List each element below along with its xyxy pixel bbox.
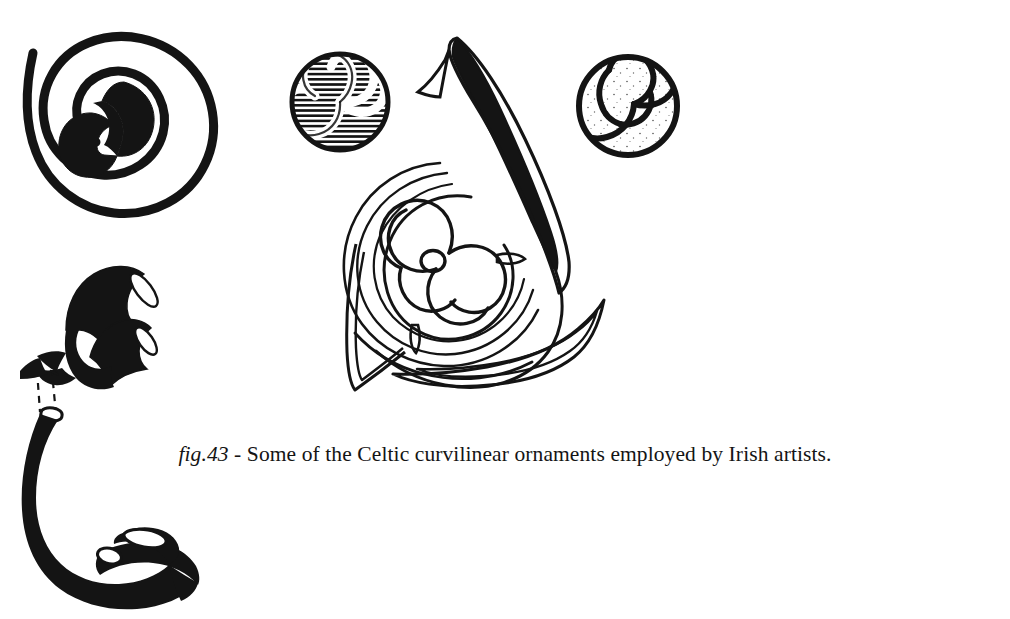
motif-triskele-arm-2 [428, 269, 488, 324]
trumpet-long-stem [22, 414, 198, 609]
motif-triskele-arm-3 [388, 210, 436, 271]
ornament-double-spiral [27, 36, 213, 213]
figure-plate: fig.43 - Some of the Celtic curvilinear … [0, 0, 1010, 619]
trumpet-bottom-mouth-small [97, 548, 121, 564]
motif-triskele-arm-1 [381, 200, 453, 268]
ornament-outlined-triskele-disc [574, 53, 677, 155]
motif-upper-leaf-notch [418, 50, 449, 97]
ornament-illustration [0, 0, 1010, 619]
ornament-hatched-triskele-disc [285, 53, 388, 150]
ornament-trumpet-spiral [20, 266, 199, 609]
